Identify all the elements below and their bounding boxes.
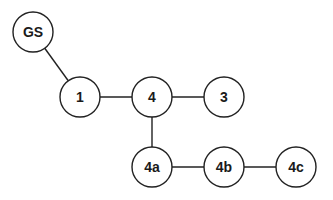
node-label: 4b xyxy=(216,159,232,175)
node-3: 3 xyxy=(204,77,244,117)
node-label: GS xyxy=(23,24,43,40)
node-label: 3 xyxy=(220,89,228,105)
node-4a: 4a xyxy=(132,147,172,187)
node-label: 4c xyxy=(288,159,304,175)
node-1: 1 xyxy=(60,77,100,117)
node-4c: 4c xyxy=(276,147,316,187)
node-gs: GS xyxy=(13,12,53,52)
tree-diagram: GS 1 4 3 4a 4b 4c xyxy=(0,0,333,200)
node-label: 4a xyxy=(144,159,160,175)
node-label: 4 xyxy=(148,89,156,105)
node-4: 4 xyxy=(132,77,172,117)
node-label: 1 xyxy=(76,89,84,105)
nodes: GS 1 4 3 4a 4b 4c xyxy=(13,12,316,187)
node-4b: 4b xyxy=(204,147,244,187)
